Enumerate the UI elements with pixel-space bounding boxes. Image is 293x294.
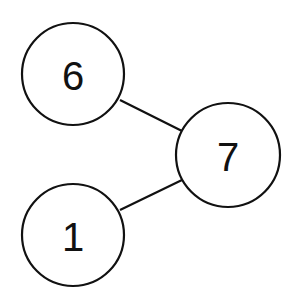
- node-label: 6: [62, 54, 84, 98]
- node-label: 1: [62, 215, 84, 259]
- edge-1-7: [120, 180, 182, 210]
- node-7: 7: [176, 103, 280, 207]
- node-1: 1: [22, 184, 124, 286]
- graph-diagram: 6 7 1: [0, 0, 293, 294]
- node-label: 7: [217, 135, 239, 179]
- node-6: 6: [22, 23, 124, 125]
- edge-6-7: [120, 100, 182, 131]
